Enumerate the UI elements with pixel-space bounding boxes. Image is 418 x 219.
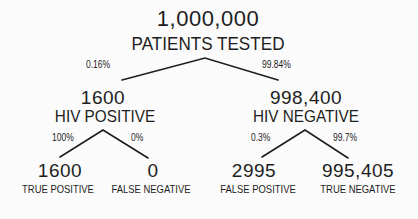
hiv-negative-count: 998,400: [270, 87, 342, 109]
true-negative-rate-pct: 99.7%: [333, 132, 357, 143]
hiv-negative-label: HIV NEGATIVE: [253, 107, 359, 127]
root-label: PATIENTS TESTED: [132, 33, 285, 55]
true-negative-label: TRUE NEGATIVE: [320, 183, 395, 195]
hiv-positive-label: HIV POSITIVE: [55, 107, 155, 127]
false-positive-count: 2995: [232, 160, 276, 182]
true-positive-label: TRUE POSITIVE: [22, 183, 94, 195]
true-positive-rate-pct: 100%: [52, 132, 74, 143]
false-positive-label: FALSE POSITIVE: [220, 183, 295, 195]
negative-rate-pct: 99.84%: [262, 59, 291, 70]
root-branch-lines: [122, 58, 278, 80]
true-negative-count: 995,405: [322, 160, 394, 182]
false-positive-rate-pct: 0.3%: [251, 132, 270, 143]
false-negative-label: FALSE NEGATIVE: [112, 183, 191, 195]
true-positive-count: 1600: [38, 160, 82, 182]
positive-rate-pct: 0.16%: [86, 59, 110, 70]
false-negative-count: 0: [147, 160, 158, 182]
false-negative-rate-pct: 0%: [131, 132, 143, 143]
hiv-positive-count: 1600: [81, 87, 125, 109]
root-count: 1,000,000: [157, 6, 259, 32]
